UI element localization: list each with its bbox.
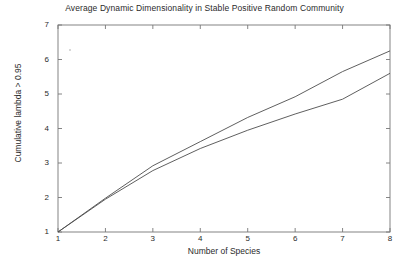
x-tick-label: 7 — [333, 234, 353, 243]
x-tick-label: 1 — [48, 234, 68, 243]
y-tick-label: 1 — [33, 227, 49, 236]
x-tick-label: 8 — [380, 234, 400, 243]
x-tick-label: 5 — [238, 234, 258, 243]
x-tick-label: 4 — [190, 234, 210, 243]
figure-canvas: Average Dynamic Dimensionality in Stable… — [0, 0, 409, 269]
y-tick-label: 2 — [33, 193, 49, 202]
plot-frame — [58, 25, 390, 232]
y-tick-label: 6 — [33, 55, 49, 64]
x-tick-label: 2 — [95, 234, 115, 243]
plot-area — [0, 0, 409, 269]
scan-artifact — [69, 49, 71, 51]
y-tick-label: 7 — [33, 20, 49, 29]
y-tick-label: 4 — [33, 124, 49, 133]
x-tick-label: 6 — [285, 234, 305, 243]
y-tick-label: 5 — [33, 89, 49, 98]
y-tick-label: 3 — [33, 158, 49, 167]
x-tick-label: 3 — [143, 234, 163, 243]
